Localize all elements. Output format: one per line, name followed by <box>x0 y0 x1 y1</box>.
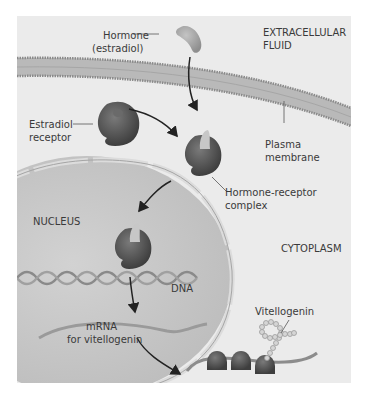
dna-label: DNA <box>171 283 193 295</box>
vitellogenin-label: Vitellogenin <box>255 306 314 318</box>
fluid-label: FLUID <box>263 40 292 52</box>
ribosomes <box>207 351 275 374</box>
mrna-label-line1: mRNA <box>86 321 117 333</box>
cytoplasm-label: CYTOPLASM <box>281 243 342 255</box>
receptor-label-line1: Estradiol <box>29 119 73 131</box>
mrna-label-line2: for vitellogenin <box>67 334 142 346</box>
complex-label-line1: Hormone-receptor <box>225 187 317 199</box>
nucleus <box>17 156 232 383</box>
hormone-molecule <box>176 26 201 53</box>
estradiol-receptor <box>98 102 139 146</box>
hormone-receptor-complex <box>185 130 221 176</box>
complex-label-line2: complex <box>225 200 267 212</box>
hormone-label-line1: Hormone <box>103 30 149 42</box>
cytoplasm-mrna <box>187 353 317 371</box>
extracellular-label: EXTRACELLULAR <box>263 27 346 39</box>
diagram-graphics <box>17 16 351 383</box>
hormone-label-line2: (estradiol) <box>92 43 143 55</box>
vitellogenin-chain <box>260 320 297 361</box>
membrane-label-line1: Plasma <box>265 139 301 151</box>
membrane-label-line2: membrane <box>265 152 320 164</box>
plasma-membrane <box>17 58 351 126</box>
nucleus-label: NUCLEUS <box>33 216 80 228</box>
diagram-panel: Hormone (estradiol) EXTRACELLULAR FLUID … <box>17 16 351 383</box>
receptor-label-line2: receptor <box>29 132 71 144</box>
